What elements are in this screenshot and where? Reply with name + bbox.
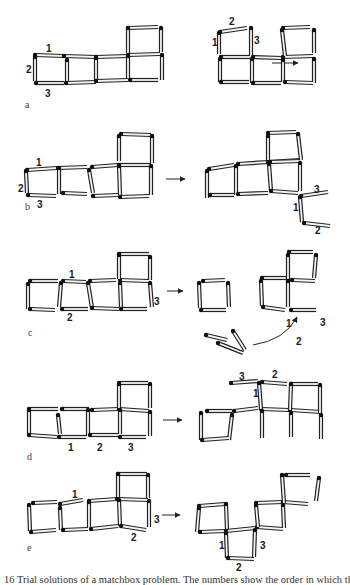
matchstick — [90, 306, 119, 310]
match-head-icon — [289, 382, 293, 386]
figure-panels: 123213a123312b123132c123321d123123e — [18, 16, 330, 573]
step-number: 2 — [236, 562, 242, 573]
match-head-icon — [119, 307, 123, 311]
match-head-icon — [269, 189, 273, 193]
step-number: 2 — [315, 225, 321, 236]
before-arrangement: 123 — [27, 381, 152, 453]
matchstick — [314, 253, 318, 278]
matchstick — [29, 530, 56, 534]
matchstick — [199, 411, 203, 440]
match-head-icon — [205, 409, 209, 413]
step-number: 1 — [293, 202, 299, 213]
before-arrangement: 123 — [26, 252, 160, 323]
matchstick — [27, 433, 57, 437]
matchstick — [117, 253, 121, 279]
match-head-icon — [117, 498, 121, 502]
matchstick — [289, 382, 293, 410]
matchstick — [281, 26, 310, 30]
panel-label: e — [27, 542, 32, 553]
match-head-icon — [205, 169, 209, 173]
matchstick — [200, 438, 229, 442]
match-head-icon — [57, 166, 61, 170]
match-head-icon — [90, 408, 94, 412]
matchstick — [87, 168, 93, 193]
match-head-icon — [119, 524, 123, 528]
match-head-icon — [224, 502, 228, 506]
match-head-icon — [314, 253, 318, 257]
matchstick — [224, 528, 255, 533]
matchstick — [24, 169, 28, 193]
matchstick — [117, 134, 121, 161]
match-head-icon — [312, 57, 316, 61]
panel-e: 123123e — [27, 472, 321, 573]
match-head-icon — [126, 26, 130, 30]
matchstick — [62, 54, 96, 58]
matchstick — [148, 281, 152, 307]
match-head-icon — [148, 255, 152, 259]
matchstick — [251, 55, 282, 59]
matchstick — [281, 503, 285, 528]
match-head-icon — [319, 413, 323, 417]
matchstick — [126, 26, 130, 53]
match-head-icon — [89, 527, 93, 531]
matchstick — [90, 408, 119, 412]
match-head-icon — [117, 253, 121, 257]
match-head-icon — [94, 56, 98, 60]
match-head-icon — [64, 81, 68, 85]
step-number: 3 — [314, 184, 320, 195]
matchstick — [251, 81, 281, 85]
match-head-icon — [198, 530, 202, 534]
match-head-icon — [298, 161, 302, 165]
match-head-icon — [118, 195, 122, 199]
matchstick — [286, 253, 290, 280]
matchstick — [298, 161, 302, 191]
step-number: 2 — [26, 64, 32, 75]
step-number: 1 — [69, 269, 75, 280]
matchstick — [289, 411, 293, 437]
match-head-icon — [253, 528, 257, 532]
match-head-icon — [58, 502, 62, 506]
panel-c: 123132c — [26, 250, 326, 353]
match-head-icon — [117, 134, 121, 138]
match-head-icon — [259, 279, 263, 283]
match-head-icon — [118, 435, 122, 439]
matchstick — [224, 502, 228, 530]
match-head-icon — [267, 162, 271, 166]
matchstick — [249, 26, 253, 55]
step-number: 3 — [320, 317, 326, 328]
match-head-icon — [290, 278, 294, 282]
matchstick — [208, 193, 234, 197]
step-number: 1 — [219, 540, 225, 551]
matchstick — [60, 407, 89, 411]
matchstick — [226, 281, 230, 307]
matchstick — [312, 57, 316, 83]
match-head-icon — [201, 279, 205, 283]
match-head-icon — [298, 195, 302, 199]
matchstick — [126, 53, 160, 57]
match-head-icon — [232, 409, 236, 413]
match-head-icon — [251, 81, 255, 85]
matchstick — [88, 433, 118, 437]
matchstick — [94, 56, 98, 81]
matchstick — [283, 80, 313, 84]
matchstick — [128, 78, 158, 82]
matchstick — [116, 472, 147, 476]
matchstick — [319, 413, 323, 439]
matchstick — [253, 528, 257, 557]
matchstick — [118, 408, 122, 434]
matchstick — [288, 408, 321, 412]
match-head-icon — [148, 281, 152, 285]
matchstick — [117, 381, 148, 385]
step-number: 2 — [229, 16, 235, 27]
matchstick — [118, 278, 148, 282]
match-head-icon — [283, 80, 287, 84]
matchstick — [197, 281, 201, 308]
step-number: 3 — [37, 199, 43, 210]
matchstick-figure: 123213a123312b123132c123321d123123e — [0, 0, 350, 585]
match-head-icon — [266, 134, 270, 138]
match-head-icon — [302, 221, 306, 225]
match-head-icon — [229, 381, 233, 385]
matchstick — [254, 503, 258, 527]
matchstick — [229, 413, 234, 440]
matchstick — [118, 435, 146, 439]
